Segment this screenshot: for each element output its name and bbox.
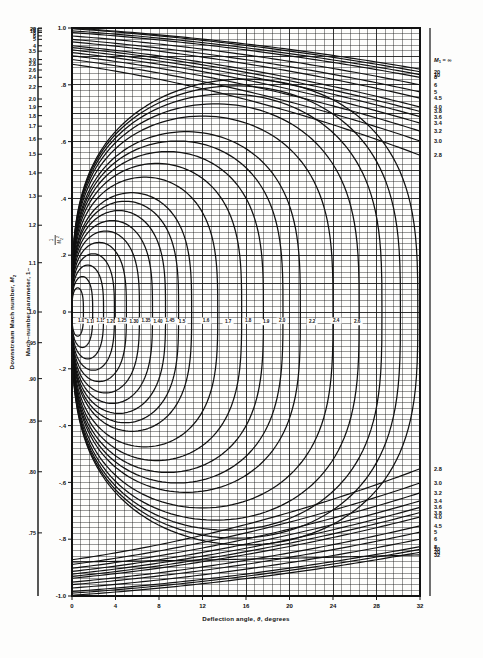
svg-text:3.4: 3.4 — [434, 498, 443, 504]
svg-text:1.2: 1.2 — [29, 222, 36, 228]
svg-text:4.5: 4.5 — [434, 523, 442, 529]
chart-canvas: 1.0.8.6.4.20-.2-.4-.6-.8-1.0 ∞201086543.… — [0, 0, 483, 658]
svg-text:2.2: 2.2 — [29, 84, 36, 90]
svg-text:3.0: 3.0 — [434, 138, 442, 144]
svg-text:1.8: 1.8 — [245, 318, 252, 323]
svg-text:Mach–number parameter, 1–: Mach–number parameter, 1– — [24, 267, 31, 356]
svg-text:1: 1 — [49, 238, 54, 241]
svg-text:1.20: 1.20 — [107, 319, 116, 324]
svg-text:16: 16 — [243, 603, 250, 609]
svg-text:4.5: 4.5 — [434, 95, 442, 101]
svg-text:2.6: 2.6 — [29, 67, 36, 73]
svg-text:6: 6 — [434, 536, 437, 542]
svg-text:2.0: 2.0 — [29, 96, 36, 102]
oblique-shock-chart: 1.0.8.6.4.20-.2-.4-.6-.8-1.0 ∞201086543.… — [0, 0, 483, 658]
svg-text:32: 32 — [434, 552, 440, 558]
svg-text:1.4: 1.4 — [29, 170, 36, 176]
svg-text:12: 12 — [199, 603, 206, 609]
svg-text:-.2: -.2 — [59, 366, 67, 372]
svg-text:3.6: 3.6 — [434, 114, 442, 120]
svg-text:.8: .8 — [61, 82, 67, 88]
svg-text:.6: .6 — [61, 139, 67, 145]
svg-text:2.4: 2.4 — [333, 318, 340, 323]
svg-text:.2: .2 — [61, 252, 67, 258]
svg-text:24: 24 — [330, 603, 337, 609]
svg-text:20: 20 — [286, 603, 293, 609]
svg-text:-.4: -.4 — [59, 423, 67, 429]
svg-text:1.3: 1.3 — [29, 193, 36, 199]
svg-text:1.5: 1.5 — [179, 319, 186, 324]
svg-text:1.45: 1.45 — [166, 318, 175, 323]
svg-text:.75: .75 — [29, 530, 36, 536]
svg-text:2.8: 2.8 — [434, 152, 442, 158]
svg-text:1.0: 1.0 — [58, 25, 67, 31]
svg-text:1.6: 1.6 — [203, 318, 210, 323]
svg-text:2.2: 2.2 — [309, 319, 316, 324]
svg-text:1.8: 1.8 — [29, 113, 36, 119]
svg-text:1.30: 1.30 — [130, 319, 139, 324]
svg-text:2.0: 2.0 — [279, 318, 286, 323]
svg-text:.80: .80 — [29, 469, 36, 475]
svg-text:-.8: -.8 — [59, 536, 67, 542]
svg-text:.4: .4 — [61, 196, 67, 202]
svg-text:2.6: 2.6 — [354, 319, 361, 324]
svg-text:3.2: 3.2 — [434, 128, 442, 134]
svg-text:5: 5 — [434, 89, 437, 95]
svg-text:1.1: 1.1 — [29, 260, 36, 266]
svg-text:1.9: 1.9 — [263, 319, 270, 324]
svg-text:2.8: 2.8 — [434, 466, 442, 472]
svg-text:.90: .90 — [29, 376, 36, 382]
svg-text:1.6: 1.6 — [29, 136, 36, 142]
svg-text:32: 32 — [417, 603, 424, 609]
svg-text:1.35: 1.35 — [142, 318, 151, 323]
svg-text:1.9: 1.9 — [29, 104, 36, 110]
svg-text:4.0: 4.0 — [434, 514, 442, 520]
svg-text:3.2: 3.2 — [434, 490, 442, 496]
svg-text:1.40: 1.40 — [154, 319, 163, 324]
svg-text:1.25: 1.25 — [118, 318, 127, 323]
svg-text:3.0: 3.0 — [434, 480, 442, 486]
svg-text:Deflection angle, θ, degrees: Deflection angle, θ, degrees — [202, 615, 290, 622]
svg-text:5: 5 — [33, 36, 36, 42]
svg-text:.85: .85 — [29, 418, 36, 424]
svg-text:3.5: 3.5 — [29, 48, 36, 54]
svg-text:-1.0: -1.0 — [56, 593, 67, 599]
svg-text:-.6: -.6 — [59, 480, 67, 486]
svg-text:5: 5 — [434, 529, 437, 535]
svg-text:1.5: 1.5 — [29, 151, 36, 157]
svg-text:6: 6 — [434, 82, 437, 88]
svg-text:1.7: 1.7 — [225, 319, 232, 324]
svg-text:2.4: 2.4 — [29, 74, 36, 80]
svg-text:1.7: 1.7 — [29, 123, 36, 129]
svg-text:3.4: 3.4 — [434, 120, 443, 126]
svg-text:28: 28 — [373, 603, 380, 609]
svg-text:8: 8 — [434, 74, 437, 80]
